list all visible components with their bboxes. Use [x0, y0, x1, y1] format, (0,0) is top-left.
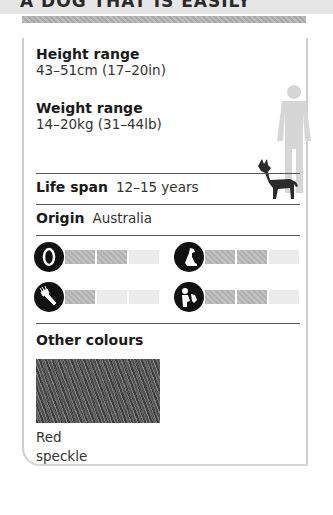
weight-range-label: Weight range: [36, 100, 162, 116]
rating-bars: [205, 250, 301, 264]
page-header-band: A DOG THAT IS EASILY: [0, 0, 333, 14]
divider: [36, 323, 300, 324]
header-stripe: [22, 16, 306, 23]
colour-swatch-caption: Red speckle: [36, 428, 87, 466]
divider: [36, 204, 300, 205]
life-span-value: 12–15 years: [116, 179, 199, 195]
origin-value: Australia: [92, 210, 152, 226]
origin-label: Origin: [36, 210, 84, 226]
rating-training: [174, 242, 301, 272]
height-range-section: Height range 43–51cm (17–20in): [36, 46, 166, 78]
rating-child-friendly: [174, 282, 301, 312]
rating-bars: [65, 290, 161, 304]
weight-range-value: 14–20kg (31–44lb): [36, 116, 162, 132]
life-span-row: Life span 12–15 years: [36, 179, 199, 195]
page-title: A DOG THAT IS EASILY: [20, 0, 251, 11]
divider: [36, 173, 300, 174]
height-range-label: Height range: [36, 46, 166, 62]
sitting-dog-icon: [174, 242, 204, 272]
rating-bars: [205, 290, 301, 304]
origin-row: Origin Australia: [36, 210, 152, 226]
rating-bars: [65, 250, 161, 264]
divider: [36, 235, 300, 236]
dog-silhouette-icon: [256, 158, 300, 200]
weight-range-section: Weight range 14–20kg (31–44lb): [36, 100, 162, 132]
food-bowl-icon: [34, 242, 64, 272]
child-with-dog-icon: [174, 282, 204, 312]
rating-grooming: [34, 282, 161, 312]
grooming-comb-icon: [34, 282, 64, 312]
life-span-label: Life span: [36, 179, 108, 195]
height-range-value: 43–51cm (17–20in): [36, 62, 166, 78]
rating-feeding: [34, 242, 161, 272]
colour-swatch-red-speckle: [36, 359, 160, 423]
breed-facts-card: Height range 43–51cm (17–20in) Weight ra…: [22, 38, 308, 466]
other-colours-label: Other colours: [36, 332, 143, 348]
